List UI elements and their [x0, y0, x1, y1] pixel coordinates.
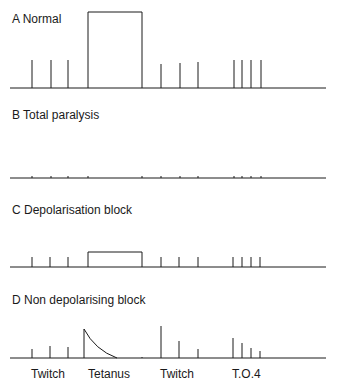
panel-c-trace [10, 252, 326, 267]
label-twitch-post: Twitch [160, 367, 194, 381]
panel-d-trace [10, 326, 326, 358]
panel-a-trace [10, 12, 326, 88]
diagram-canvas [0, 0, 338, 383]
label-tetanus: Tetanus [88, 367, 130, 381]
label-train-of-four: T.O.4 [232, 367, 261, 381]
panel-b-trace [10, 176, 326, 178]
label-twitch-pre: Twitch [31, 367, 65, 381]
